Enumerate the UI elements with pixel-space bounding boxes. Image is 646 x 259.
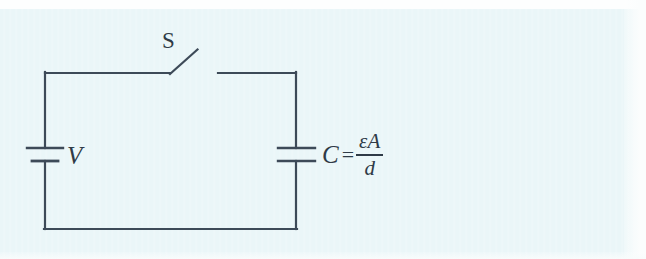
circuit-diagram-figure: S V C = εA d xyxy=(0,0,646,259)
switch-blade[interactable] xyxy=(170,50,198,75)
capacitance-formula-label: C = εA d xyxy=(322,131,383,179)
switch-label: S xyxy=(162,29,175,52)
battery-voltage-label: V xyxy=(67,143,82,168)
capacitance-fraction: εA d xyxy=(356,131,383,179)
fraction-denominator: d xyxy=(361,156,378,179)
capacitance-symbol: C xyxy=(322,142,339,167)
fraction-numerator: εA xyxy=(356,131,383,154)
circuit-schematic-svg xyxy=(0,0,646,259)
equals-sign: = xyxy=(342,144,354,166)
